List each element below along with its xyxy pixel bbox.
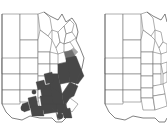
right-map-svg — [103, 0, 167, 126]
two-panel-map-figure — [0, 0, 167, 126]
left-map-svg — [0, 0, 92, 126]
left-map-panel — [0, 0, 92, 126]
right-map-state-borders — [105, 12, 167, 110]
right-map-panel — [103, 0, 167, 126]
